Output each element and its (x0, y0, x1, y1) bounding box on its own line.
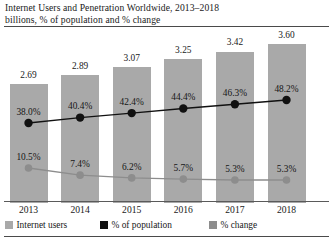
pct-of-population-label-2014: 40.4% (54, 101, 106, 111)
pct-of-population-label-2018: 48.2% (261, 84, 313, 94)
pct-change-marker-2015 (128, 174, 136, 182)
pct-of-population-marker-2017 (231, 100, 239, 108)
pct-of-population-marker-2016 (179, 104, 187, 112)
x-tick-2013: 2013 (3, 204, 55, 216)
pct-change-label-2016: 5.7% (157, 163, 209, 173)
x-tick-2015: 2015 (106, 204, 158, 216)
chart-legend: Internet users% of population% change (0, 220, 333, 234)
legend-label-0: Internet users (17, 220, 68, 230)
x-axis-line (4, 201, 329, 202)
pct-of-population-marker-2018 (282, 96, 290, 104)
footer-divider (4, 236, 329, 237)
page-title: Internet Users and Penetration Worldwide… (5, 2, 329, 14)
pct-change-marker-2014 (76, 171, 84, 179)
x-axis-tick-labels: 201320142015201620172018 (0, 204, 333, 218)
legend-item-0: Internet users (5, 220, 67, 230)
pct-change-label-2017: 5.3% (209, 164, 261, 174)
legend-item-2: % change (209, 220, 257, 230)
legend-label-2: % change (221, 220, 258, 230)
chart-subtitle: billions, % of population and % change (5, 14, 329, 26)
x-tick-2014: 2014 (54, 204, 106, 216)
x-tick-2018: 2018 (261, 204, 313, 216)
pct-of-population-label-2016: 44.4% (157, 92, 209, 102)
legend-item-1: % of population (100, 220, 172, 230)
title-block: Internet Users and Penetration Worldwide… (5, 2, 329, 25)
pct-of-population-marker-2015 (128, 109, 136, 117)
legend-label-1: % of population (112, 220, 172, 230)
pct-change-label-2015: 6.2% (106, 162, 158, 172)
legend-swatch-icon-2 (209, 221, 217, 229)
legend-swatch-icon-0 (5, 221, 13, 229)
pct-change-label-2013: 10.5% (3, 152, 55, 162)
pct-change-label-2014: 7.4% (54, 159, 106, 169)
pct-of-population-marker-2014 (76, 113, 84, 121)
x-tick-2017: 2017 (209, 204, 261, 216)
pct-of-population-label-2017: 46.3% (209, 88, 261, 98)
chart-figure: Internet Users and Penetration Worldwide… (0, 0, 333, 241)
pct-of-population-label-2015: 42.4% (106, 97, 158, 107)
pct-change-marker-2016 (180, 175, 188, 183)
pct-change-marker-2013 (25, 164, 33, 172)
pct-change-marker-2018 (283, 176, 291, 184)
x-tick-2016: 2016 (157, 204, 209, 216)
header-divider (4, 26, 329, 27)
pct-of-population-label-2013: 38.0% (3, 107, 55, 117)
pct-change-marker-2017 (231, 176, 239, 184)
plot-area: 2.692.893.073.253.423.60 38.0%40.4%42.4%… (0, 28, 333, 203)
pct-of-population-marker-2013 (24, 119, 32, 127)
legend-swatch-icon-1 (100, 221, 108, 229)
pct-change-label-2018: 5.3% (261, 164, 313, 174)
